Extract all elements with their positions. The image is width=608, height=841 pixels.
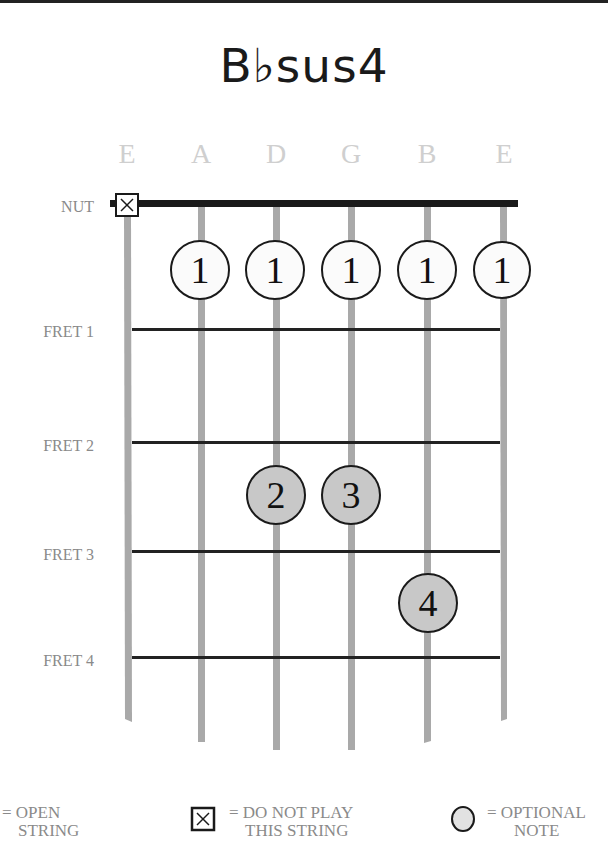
optional-note-3-g: 3 [322, 466, 380, 524]
svg-text:3: 3 [342, 474, 361, 516]
nut-bar [110, 200, 518, 207]
svg-text:1: 1 [342, 249, 361, 291]
fretboard-diagram: 1 1 1 1 1 2 3 4 [0, 0, 608, 841]
svg-text:1: 1 [266, 249, 285, 291]
legend-open-string: = OPEN STRING [2, 804, 79, 840]
legend-optional-note: = OPTIONAL NOTE [487, 804, 586, 840]
finger-dot-1-d: 1 [246, 241, 304, 299]
legend-optional-circle-icon [452, 807, 474, 831]
legend-open-line1: = OPEN [2, 804, 79, 822]
legend-muted-line1: = DO NOT PLAY [229, 804, 353, 822]
legend-muted-string: = DO NOT PLAY THIS STRING [229, 804, 353, 840]
string-low-e [124, 210, 132, 722]
finger-dot-1-g: 1 [322, 241, 380, 299]
svg-text:2: 2 [267, 474, 286, 516]
legend-muted-x-icon [192, 808, 214, 830]
svg-text:1: 1 [418, 249, 437, 291]
svg-text:4: 4 [419, 582, 438, 624]
legend-open-line2: STRING [2, 822, 79, 840]
legend-muted-line2: THIS STRING [229, 822, 353, 840]
fret-4-line [132, 656, 500, 659]
optional-note-2-d: 2 [247, 466, 305, 524]
finger-dot-1-a: 1 [171, 241, 229, 299]
optional-note-4-b: 4 [399, 574, 457, 632]
legend-optional-line1: = OPTIONAL [487, 804, 586, 822]
muted-string-x-icon [116, 194, 138, 216]
legend-optional-line2: NOTE [487, 822, 586, 840]
svg-text:1: 1 [493, 249, 512, 291]
finger-dot-1-b: 1 [398, 241, 456, 299]
fret-2-line [132, 441, 500, 444]
fret-1-line [132, 328, 500, 331]
finger-dot-1-high-e: 1 [474, 242, 530, 298]
fret-3-line [132, 550, 500, 553]
svg-text:1: 1 [191, 249, 210, 291]
